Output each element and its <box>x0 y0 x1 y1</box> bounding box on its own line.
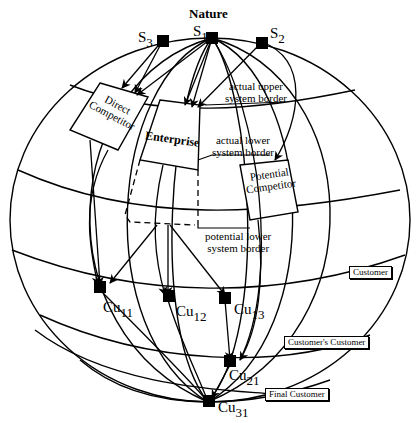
customer-cu12-label: Cu12 <box>176 304 207 323</box>
customer-cu11-label: Cu11 <box>103 300 133 319</box>
node-s2 <box>256 37 268 49</box>
value-chain-globe-diagram: Nature S3 S1 S2 DirectCompetitor Enterpr… <box>0 0 417 423</box>
customer-level-tag: Customer <box>349 266 392 279</box>
final-customer-level-tag: Final Customer <box>265 388 329 401</box>
customer-cu13-label: Cu13 <box>234 302 265 321</box>
node-cu21 <box>224 355 236 367</box>
nature-title: Nature <box>189 7 228 20</box>
customer-cu31-label: Cu31 <box>218 400 249 419</box>
customer-cu21-label: Cu21 <box>229 368 260 387</box>
actual-upper-border-label: actual uppersystem border <box>225 80 287 104</box>
customers-customer-level-tag: Customer's Customer <box>284 336 369 349</box>
node-cu13 <box>219 292 231 304</box>
actual-lower-border-label: actual lowersystem border <box>212 134 274 158</box>
node-cu12 <box>163 290 175 302</box>
supplier-s3-label: S3 <box>138 30 153 49</box>
node-cu11 <box>94 281 106 293</box>
node-s3 <box>157 35 169 47</box>
node-cu31 <box>203 395 215 407</box>
supplier-s2-label: S2 <box>270 26 285 45</box>
supplier-s1-label: S1 <box>193 24 208 43</box>
potential-lower-border-label: potential lowersystem border <box>205 230 271 254</box>
globe-graphic <box>0 0 417 423</box>
